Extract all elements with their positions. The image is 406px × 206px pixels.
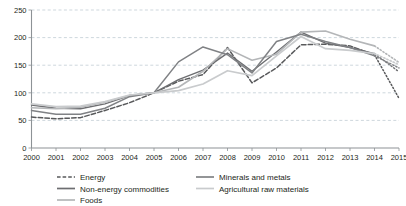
x-tick-label: 2002 [72,153,89,162]
chart-legend: EnergyNon-energy commoditiesFoodsMineral… [57,173,309,205]
gridlines [32,10,400,120]
y-tick-label: 200 [14,33,27,42]
x-axis-tick-labels: 2000200120022003200420052006200720082009… [23,153,406,162]
x-tick-label: 2003 [97,153,114,162]
series-line-energy [32,44,375,119]
x-tick-label: 2011 [293,153,309,162]
x-tick-label: 2006 [170,153,187,162]
y-tick-label: 0 [22,144,26,153]
legend-label-minerals-and-metals[interactable]: Minerals and metals [219,173,291,182]
x-tick-label: 2015 [391,153,406,162]
legend-label-energy[interactable]: Energy [80,173,105,182]
x-tick-label: 2004 [121,153,138,162]
chart-container: 050100150200250 200020012002200320042005… [0,0,406,206]
y-tick-label: 100 [14,89,27,98]
x-tick-label: 2008 [219,153,236,162]
x-tick-label: 2005 [146,153,163,162]
series-layer [32,31,400,119]
y-tick-label: 150 [14,61,27,70]
y-axis-tick-labels: 050100150200250 [14,6,27,153]
x-tick-label: 2012 [317,153,334,162]
commodity-price-index-line-chart: 050100150200250 200020012002200320042005… [0,0,406,206]
legend-label-agricultural-raw-materials[interactable]: Agricultural raw materials [219,185,309,194]
legend-label-foods[interactable]: Foods [80,196,102,205]
x-tick-label: 2001 [48,153,65,162]
x-tick-label: 2000 [23,153,40,162]
x-tick-label: 2013 [342,153,359,162]
y-tick-label: 50 [18,116,26,125]
legend-label-non-energy-commodities[interactable]: Non-energy commodities [80,185,169,194]
y-tick-label: 250 [14,6,27,15]
x-tick-label: 2010 [268,153,285,162]
x-tick-label: 2009 [244,153,261,162]
x-tick-label: 2007 [195,153,212,162]
x-tick-label: 2014 [366,153,383,162]
